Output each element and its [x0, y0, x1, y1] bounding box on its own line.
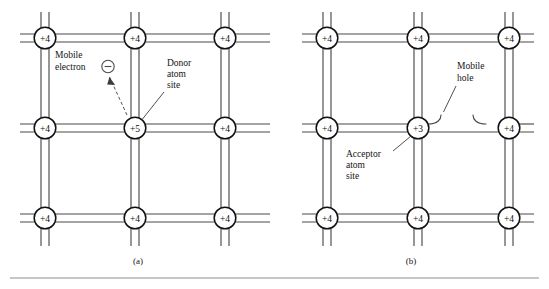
atom-label: +4 [504, 124, 514, 134]
atom-label: +4 [220, 124, 230, 134]
mobile-electron-label-line1: Mobile [55, 50, 82, 60]
atom-label: +4 [504, 214, 514, 224]
donor-site-label-line1: Donor [167, 58, 192, 68]
atom-node: +4 [498, 207, 520, 229]
mobile-electron-label-line2: electron [55, 62, 86, 72]
atom-node: +4 [214, 117, 236, 139]
atom-node: +4 [316, 27, 338, 49]
electron-motion-arrowhead [106, 76, 115, 86]
panel-a: +4 +4 +4 +4 +5 [20, 12, 270, 266]
atom-node: +4 [498, 27, 520, 49]
atom-label: +4 [40, 124, 50, 134]
panel-a-caption: (a) [133, 256, 143, 266]
donor-site-leader-line [143, 92, 165, 119]
atom-node: +4 [498, 117, 520, 139]
atom-label: +4 [322, 214, 332, 224]
donor-site-label-line3: site [167, 80, 180, 90]
panel-b-atoms: +4 +4 +4 +4 +3 [316, 27, 520, 229]
atom-label: +4 [504, 34, 514, 44]
mobile-hole-broken-bond [426, 115, 486, 127]
atom-node: +4 [316, 117, 338, 139]
atom-node: +4 [214, 27, 236, 49]
mobile-electron-annotation: Mobile electron [53, 47, 127, 115]
atom-node: +4 [214, 207, 236, 229]
panel-b: +4 +4 +4 +4 +3 [302, 12, 534, 266]
panel-b-caption: (b) [406, 256, 417, 266]
atom-node: +4 [124, 27, 146, 49]
atom-node: +4 [407, 207, 429, 229]
acceptor-atom-node: +3 [407, 117, 429, 139]
atom-label: +4 [322, 34, 332, 44]
atom-node: +4 [34, 27, 56, 49]
acceptor-site-leader-line [393, 136, 411, 151]
atom-label: +4 [322, 124, 332, 134]
mobile-hole-label-line1: Mobile [457, 61, 484, 71]
atom-label: +4 [130, 214, 140, 224]
semiconductor-doping-figure: +4 +4 +4 +4 +5 [0, 0, 549, 289]
donor-atom-label: +5 [130, 124, 140, 134]
atom-label: +4 [40, 214, 50, 224]
acceptor-site-label-line1: Acceptor [346, 149, 382, 159]
donor-site-annotation: Donor atom site [143, 56, 210, 119]
acceptor-atom-label: +3 [413, 124, 423, 134]
mobile-hole-leader-line [444, 86, 457, 112]
atom-node: +4 [316, 207, 338, 229]
acceptor-site-label-line3: site [346, 171, 359, 181]
atom-label: +4 [220, 34, 230, 44]
mobile-hole-label-line2: hole [457, 73, 473, 83]
atom-node: +4 [407, 27, 429, 49]
atom-label: +4 [413, 34, 423, 44]
figure-canvas: +4 +4 +4 +4 +5 [0, 0, 549, 289]
acceptor-site-annotation: Acceptor atom site [344, 136, 411, 183]
mobile-hole-annotation: Mobile hole [444, 58, 502, 112]
atom-node: +4 [124, 207, 146, 229]
donor-site-label-line2: atom [167, 69, 187, 79]
atom-label: +4 [220, 214, 230, 224]
acceptor-site-label-line2: atom [346, 160, 366, 170]
donor-atom-node: +5 [124, 117, 146, 139]
atom-node: +4 [34, 117, 56, 139]
atom-label: +4 [413, 214, 423, 224]
atom-label: +4 [40, 34, 50, 44]
atom-node: +4 [34, 207, 56, 229]
atom-label: +4 [130, 34, 140, 44]
